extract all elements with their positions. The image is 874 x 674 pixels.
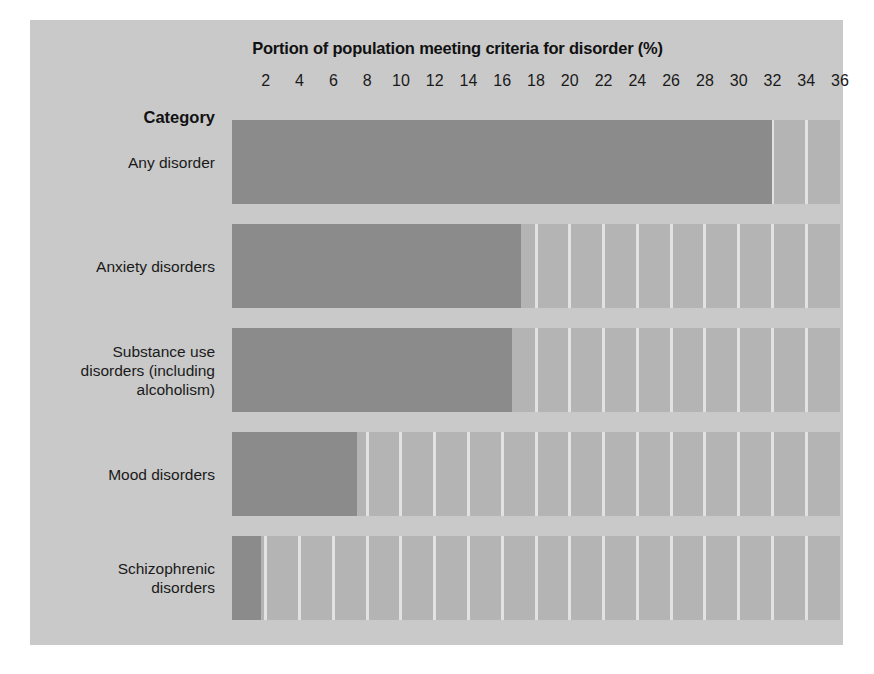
bar — [232, 224, 521, 308]
bar — [232, 432, 357, 516]
x-tick-label: 22 — [595, 72, 613, 90]
category-label: Substance usedisorders (includingalcohol… — [30, 342, 215, 399]
row-separator — [232, 110, 840, 120]
x-tick-label: 14 — [460, 72, 478, 90]
x-tick-label: 26 — [662, 72, 680, 90]
chart-figure: Portion of population meeting criteria f… — [30, 20, 843, 645]
bar — [232, 120, 772, 204]
x-tick-label: 20 — [561, 72, 579, 90]
row-separator — [232, 422, 840, 432]
row-separator — [232, 412, 840, 422]
x-tick-label: 24 — [628, 72, 646, 90]
x-tick-label: 30 — [730, 72, 748, 90]
x-tick-label: 8 — [363, 72, 372, 90]
x-tick-label: 10 — [392, 72, 410, 90]
x-tick-label: 16 — [493, 72, 511, 90]
category-axis-header: Category — [30, 108, 215, 127]
x-axis-tick-labels: 24681012141618202224262830323436 — [232, 72, 840, 96]
category-label: Schizophrenicdisorders — [30, 559, 215, 597]
x-tick-label: 12 — [426, 72, 444, 90]
chart-title: Portion of population meeting criteria f… — [30, 39, 843, 58]
x-tick-label: 36 — [831, 72, 849, 90]
category-label: Mood disorders — [30, 465, 215, 484]
gridline — [805, 110, 808, 630]
x-tick-label: 4 — [295, 72, 304, 90]
row-separator — [232, 620, 840, 630]
bar — [232, 536, 261, 620]
category-label: Anxiety disorders — [30, 257, 215, 276]
row-separator — [232, 526, 840, 536]
row-separator — [232, 516, 840, 526]
row-separator — [232, 214, 840, 224]
bar — [232, 328, 512, 412]
plot-area — [232, 110, 840, 630]
x-tick-label: 34 — [797, 72, 815, 90]
x-tick-label: 2 — [261, 72, 270, 90]
x-tick-label: 28 — [696, 72, 714, 90]
row-separator — [232, 308, 840, 318]
x-tick-label: 32 — [764, 72, 782, 90]
x-tick-label: 18 — [527, 72, 545, 90]
x-tick-label: 6 — [329, 72, 338, 90]
category-label: Any disorder — [30, 153, 215, 172]
row-separator — [232, 318, 840, 328]
row-separator — [232, 204, 840, 214]
